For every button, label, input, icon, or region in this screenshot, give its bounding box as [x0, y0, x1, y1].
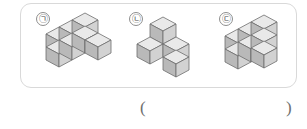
- figure-b-drawing: [121, 4, 209, 89]
- figure-c-drawing: [211, 4, 296, 89]
- figure-group-b: ㉡: [121, 4, 209, 89]
- worksheet-page: ㉠: [0, 0, 307, 129]
- figure-group-c: ㉢: [211, 4, 296, 89]
- answer-close-paren: ): [286, 98, 292, 118]
- answer-blank[interactable]: [150, 100, 282, 118]
- figure-a-drawing: [26, 4, 121, 89]
- figure-box: ㉠: [20, 3, 297, 88]
- answer-row: ( ): [0, 92, 307, 129]
- answer-open-paren: (: [140, 98, 146, 118]
- figure-group-a: ㉠: [26, 4, 121, 89]
